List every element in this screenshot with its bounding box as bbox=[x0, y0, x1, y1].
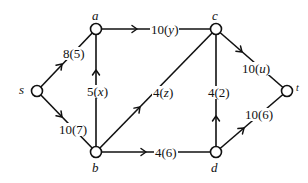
flow-value: 6 bbox=[262, 107, 269, 122]
edge-c-t bbox=[216, 29, 287, 91]
capacity-value: 5 bbox=[87, 84, 94, 99]
flow-value: 2 bbox=[219, 85, 226, 100]
capacity-value: 10 bbox=[245, 107, 258, 122]
edge-label-d-c: 4(2) bbox=[207, 86, 231, 99]
capacity-value: 10 bbox=[151, 22, 164, 37]
edge-label-b-d: 4(6) bbox=[154, 146, 178, 159]
node-label-a: a bbox=[92, 9, 99, 22]
node-a bbox=[91, 24, 102, 35]
node-label-b: b bbox=[92, 161, 99, 174]
node-label-d: d bbox=[211, 161, 218, 174]
edge-label-b-a: 5(x) bbox=[86, 85, 109, 98]
capacity-value: 8 bbox=[63, 46, 70, 61]
edge-label-s-b: 10(7) bbox=[58, 123, 88, 136]
edge-label-a-c: 10(y) bbox=[150, 23, 179, 36]
flow-value: 5 bbox=[74, 46, 81, 61]
capacity-value: 10 bbox=[59, 122, 72, 137]
capacity-value: 4 bbox=[155, 145, 162, 160]
flow-value: y bbox=[168, 22, 174, 37]
edge-label-d-t: 10(6) bbox=[244, 108, 274, 121]
node-label-c: c bbox=[212, 9, 218, 22]
node-t bbox=[282, 86, 293, 97]
node-b bbox=[91, 147, 102, 158]
node-label-t: t bbox=[296, 83, 299, 93]
edge-label-b-c: 4(z) bbox=[152, 86, 174, 99]
flow-value: u bbox=[259, 61, 266, 76]
flow-value: x bbox=[98, 84, 104, 99]
flow-value: 6 bbox=[166, 145, 173, 160]
flow-value: z bbox=[164, 85, 169, 100]
node-d bbox=[211, 147, 222, 158]
edge-label-s-a: 8(5) bbox=[62, 47, 86, 60]
node-c bbox=[211, 24, 222, 35]
capacity-value: 10 bbox=[242, 61, 255, 76]
edge-label-c-t: 10(u) bbox=[241, 62, 271, 75]
flow-value: 7 bbox=[76, 122, 83, 137]
capacity-value: 4 bbox=[153, 85, 160, 100]
node-s bbox=[32, 86, 43, 97]
node-label-s: s bbox=[19, 83, 24, 96]
capacity-value: 4 bbox=[208, 85, 215, 100]
